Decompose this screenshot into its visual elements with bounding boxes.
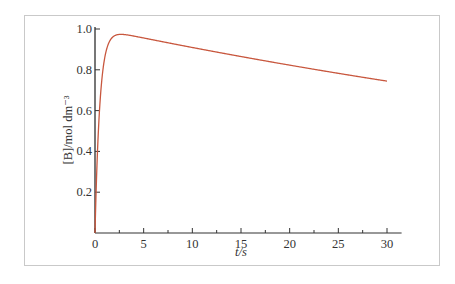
y-tick-label: 0.2 — [76, 185, 92, 199]
y-tick-label: 1.0 — [76, 22, 92, 36]
x-axis-label: t/s — [235, 245, 247, 259]
line-chart: 0510152025300.20.40.60.81.0 t/s [B]/mol … — [0, 0, 455, 284]
y-tick-label: 0.8 — [76, 63, 92, 77]
x-tick-label: 10 — [186, 237, 199, 251]
x-tick-label: 25 — [332, 237, 345, 251]
x-tick-label: 30 — [381, 237, 394, 251]
x-tick-label: 20 — [283, 237, 296, 251]
data-series-B — [95, 34, 387, 233]
ticks: 0510152025300.20.40.60.81.0 — [76, 22, 393, 251]
x-tick-label: 5 — [141, 237, 147, 251]
y-axis-label: [B]/mol dm⁻³ — [61, 95, 75, 164]
y-tick-label: 0.4 — [76, 144, 92, 158]
y-tick-label: 0.6 — [76, 104, 92, 118]
x-tick-label: 0 — [92, 237, 98, 251]
